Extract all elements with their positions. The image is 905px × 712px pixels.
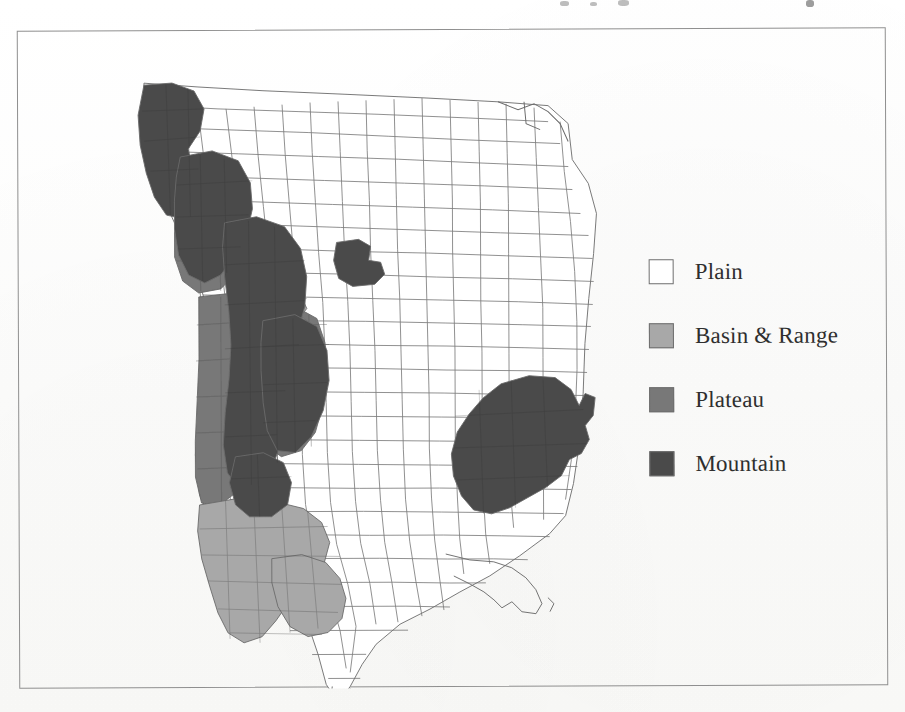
legend-item-plain[interactable]: Plain	[649, 238, 899, 303]
legend-swatch-plain	[649, 259, 674, 284]
map-layers	[138, 81, 598, 712]
legend-swatch-mountain	[649, 451, 674, 476]
legend-swatch-basin-range	[649, 323, 674, 348]
map-canvas[interactable]	[48, 63, 651, 712]
legend-label-plateau: Plateau	[695, 387, 764, 410]
cut-off-title-sliver	[556, 0, 896, 9]
legend-label-basin-range: Basin & Range	[695, 323, 838, 347]
legend: Plain Basin & Range Plateau Mountain	[649, 238, 900, 495]
legend-item-mountain[interactable]: Mountain	[649, 430, 899, 495]
legend-swatch-plateau	[649, 387, 674, 412]
legend-label-plain: Plain	[695, 259, 743, 282]
legend-label-mountain: Mountain	[695, 451, 786, 474]
figure-border: Plain Basin & Range Plateau Mountain	[17, 27, 889, 688]
legend-item-plateau[interactable]: Plateau	[649, 366, 899, 431]
us-counties-choropleth[interactable]	[48, 63, 651, 712]
legend-item-basin-range[interactable]: Basin & Range	[649, 302, 899, 367]
